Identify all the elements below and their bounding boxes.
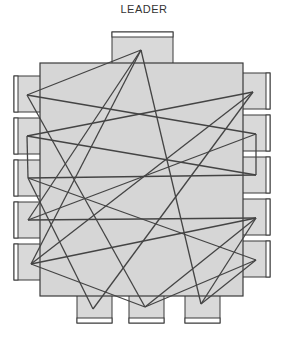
chair-back-bottom-2 — [129, 318, 164, 323]
chair-back-left-3 — [14, 160, 18, 196]
chair-back-right-5 — [266, 241, 270, 277]
chair-back-left-2 — [14, 118, 18, 154]
chair-back-left-1 — [14, 76, 18, 112]
table — [40, 63, 243, 296]
chair-back-bottom-1 — [77, 318, 112, 323]
seating-diagram — [0, 0, 288, 344]
chair-back-left-4 — [14, 202, 18, 238]
chair-back-right-4 — [266, 199, 270, 235]
chair-back-bottom-3 — [185, 318, 220, 323]
chair-back-right-1 — [266, 73, 270, 109]
chair-back-left-5 — [14, 244, 18, 280]
chair-back-leader — [112, 32, 173, 37]
chair-back-right-3 — [266, 157, 270, 193]
chair-back-right-2 — [266, 115, 270, 151]
